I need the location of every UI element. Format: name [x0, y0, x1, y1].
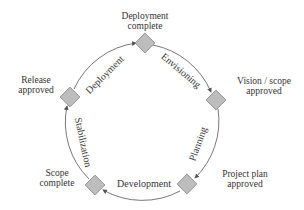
- milestone-label-deployment-complete-2: complete: [128, 21, 163, 31]
- phase-label-stabilization: Stabilization: [73, 116, 94, 168]
- arc-development: [103, 190, 180, 200]
- milestone-label-scope-1: Scope: [45, 168, 68, 178]
- milestone-diamond-project-plan-approved: [177, 174, 197, 194]
- milestone-label-plan-1: Project plan: [222, 169, 268, 179]
- milestone-label-vision-1: Vision / scope: [237, 76, 291, 86]
- milestone-diamond-release-approved: [60, 87, 80, 107]
- milestone-label-release-2: approved: [18, 85, 54, 95]
- milestone-label-release-1: Release: [21, 75, 51, 85]
- milestone-diamond-vision-scope-approved: [206, 90, 226, 110]
- milestone-label-scope-2: complete: [40, 178, 75, 188]
- milestone-diamond-deployment-complete: [135, 33, 155, 53]
- milestone-label-vision-2: approved: [246, 86, 282, 96]
- phase-label-development: Development: [117, 178, 171, 189]
- milestone-label-deployment-complete-1: Deployment: [122, 11, 169, 21]
- cycle-diagram: Deployment complete Vision / scope appro…: [0, 0, 304, 210]
- phase-label-planning: Planning: [186, 125, 208, 162]
- milestone-label-plan-2: approved: [227, 179, 263, 189]
- phase-label-deployment: Deployment: [83, 53, 126, 96]
